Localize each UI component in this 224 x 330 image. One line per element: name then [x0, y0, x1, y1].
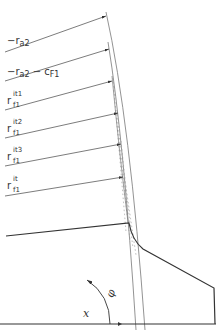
label-rf1-it1: rit1f1	[7, 96, 11, 106]
arrow-rf1-it3	[5, 144, 121, 166]
label-rf1-it2: rit2f1	[7, 124, 11, 134]
tooth-profile	[6, 223, 215, 324]
x-axis-marker	[118, 322, 122, 326]
label-ra2: −ra2	[7, 36, 30, 46]
root-boundary	[112, 76, 128, 222]
label-rf1-it3: rit3f1	[7, 152, 11, 162]
iteration-arc-1	[113, 78, 126, 232]
arrow-rf1-it	[5, 177, 123, 196]
label-ra2-cf1: −ra2 − cF1	[7, 67, 59, 77]
label-rf1-it: ritf1	[7, 181, 11, 191]
tip-circle-arc	[106, 12, 145, 330]
tooth-profile-diagram	[0, 0, 224, 330]
label-x-axis: x	[83, 308, 89, 319]
